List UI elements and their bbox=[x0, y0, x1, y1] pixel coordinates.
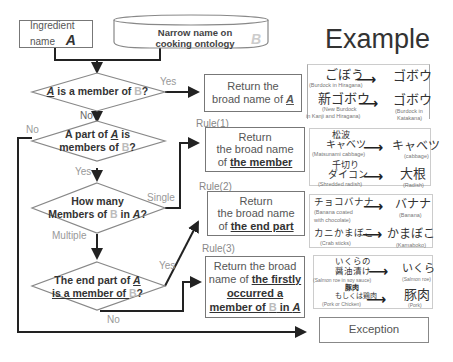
ontology-label: Narrow name on cooking ontology bbox=[140, 27, 250, 50]
ex3-arrow-2: ⟶ bbox=[366, 292, 386, 306]
ex3-to-2-cap: (Pork) bbox=[408, 303, 422, 309]
r1-pre: of bbox=[218, 156, 230, 168]
ex1-from-1b: キャベツ bbox=[326, 140, 366, 150]
symbol-b: B bbox=[251, 31, 261, 47]
exception-label: Exception bbox=[349, 323, 400, 336]
rule-3-label: Rule(3) bbox=[202, 243, 235, 254]
result-broad-name-a: Return the broad name of A bbox=[204, 74, 302, 112]
r3-line2: name of the firstly bbox=[209, 273, 301, 287]
ex0-from-2-cap2: in Kanji and Hiragana) bbox=[306, 113, 360, 119]
decision-1-post: ? bbox=[142, 85, 148, 97]
ex2-to-2-cap: (Kamaboko) bbox=[396, 242, 426, 248]
ex1-arrow-1: ⟶ bbox=[363, 140, 383, 154]
ingredient-label-line2-wrap: name A bbox=[30, 32, 76, 48]
ingredient-label-line1: Ingredient bbox=[30, 20, 74, 32]
d2-pre2: members of bbox=[59, 141, 121, 153]
d4-no-label: No bbox=[107, 314, 120, 325]
ex3-to-2: 豚肉 bbox=[404, 288, 430, 301]
ex2-arrow-2: ⟶ bbox=[362, 227, 382, 241]
ex3-to-1: いくら bbox=[402, 263, 435, 274]
ontology-line1: Narrow name on bbox=[140, 27, 250, 38]
ex1-to-2: 大根 bbox=[400, 167, 426, 180]
d2-yes-label: Yes bbox=[75, 166, 91, 177]
result-rule-3: Return the broad name of the firstly occ… bbox=[205, 256, 305, 318]
ex1-from-2-cap: (Shredded radish) bbox=[318, 181, 362, 187]
decision-2-line1: A part of A is bbox=[45, 128, 150, 141]
d1-yes-label: Yes bbox=[160, 76, 176, 87]
d2-post2: ? bbox=[129, 141, 135, 153]
r0-line2: broad name of A bbox=[212, 93, 294, 106]
ingredient-label-line2: name bbox=[30, 36, 55, 47]
ex3-arrow-1: ⟶ bbox=[368, 264, 388, 278]
ex2-arrow-1: ⟶ bbox=[363, 199, 383, 213]
r0-pre: broad name of bbox=[212, 93, 286, 105]
result-rule-2: Return the broad name of the end part bbox=[207, 191, 305, 236]
ex1-from-1-cap: (Matsunami cabbage) bbox=[312, 151, 365, 157]
d3-multiple-label: Multiple bbox=[52, 230, 86, 241]
symbol-b: B bbox=[134, 85, 142, 97]
example-title: Example bbox=[325, 24, 430, 55]
decision-3-text: How many Members of B in A? bbox=[45, 195, 150, 221]
r3-bold2: occurred a bbox=[227, 287, 283, 301]
d3-single-label: Single bbox=[147, 192, 175, 203]
symbol-a: A bbox=[286, 93, 294, 105]
ex0-arrow-1: ⟶ bbox=[356, 72, 376, 86]
ex0-to-2: ゴボウ bbox=[393, 93, 432, 106]
decision-4-line1: The end part of A bbox=[40, 274, 155, 287]
ex0-to-2-cap: (Burdock in bbox=[395, 108, 423, 114]
ex3-from-1b: 醤油漬け bbox=[335, 267, 371, 276]
r3-line1: Return the broad bbox=[214, 260, 297, 274]
d4-post2: ? bbox=[137, 287, 143, 299]
r3-pre: name of bbox=[209, 273, 252, 285]
decision-1-mid: is a member of bbox=[54, 85, 134, 97]
r3-pre4: member of bbox=[209, 301, 268, 313]
r2-pre: of bbox=[218, 220, 230, 232]
ex2-to-1-cap: (Banana) bbox=[399, 212, 422, 218]
decision-1-text: A is a member of B? bbox=[45, 85, 150, 98]
ex0-to-1: ゴボウ bbox=[393, 69, 432, 82]
symbol-b: B bbox=[110, 208, 118, 220]
ex1-to-1-cap: (cabbage) bbox=[404, 153, 429, 159]
decision-4-text: The end part of A is a member of B? bbox=[40, 274, 155, 300]
symbol-b: B bbox=[129, 287, 137, 299]
d4-yes-label: Yes bbox=[159, 260, 175, 271]
r3-bold1: the firstly bbox=[252, 273, 302, 285]
decision-2-line2: members of B? bbox=[45, 141, 150, 154]
symbol-a: A bbox=[66, 32, 76, 48]
r1-line1: Return bbox=[238, 131, 271, 144]
exception-box: Exception bbox=[319, 317, 429, 343]
ontology-line2: cooking ontology bbox=[140, 38, 250, 49]
decision-3-line1: How many bbox=[45, 195, 150, 208]
ex2-from-1-cap: (Banana coated bbox=[314, 209, 353, 215]
d3-pre: Members of bbox=[48, 208, 110, 220]
ex0-to-2-cap2: Katakana) bbox=[397, 115, 422, 121]
ex3-from-1: いくらの bbox=[335, 257, 371, 266]
d1-no-label: No bbox=[80, 110, 93, 121]
r1-line2: the broad name bbox=[216, 143, 293, 156]
r3-line4: member of B in A bbox=[209, 301, 300, 315]
ex2-to-1: バナナ bbox=[395, 198, 431, 210]
symbol-a: A bbox=[133, 274, 141, 286]
r1-line3: of the member bbox=[218, 156, 293, 169]
ex1-to-1: キャベツ bbox=[392, 140, 440, 152]
ex2-from-1-cap2: with chocolate) bbox=[314, 217, 351, 223]
ex0-arrow-2: ⟶ bbox=[358, 96, 378, 110]
decision-3-line2: Members of B in A? bbox=[45, 208, 150, 221]
r2-line2: the broad name bbox=[217, 207, 294, 220]
d3-mid: in bbox=[118, 208, 133, 220]
ex3-from-1-cap: (Salmon roe in soy sauce) bbox=[313, 278, 371, 284]
d4-pre: The end part of bbox=[54, 274, 133, 286]
d4-pre2: is a member of bbox=[52, 287, 129, 299]
ex3-from-2-cap: (Pork or Chicken) bbox=[322, 302, 361, 308]
ex1-to-2-cap: (Radish) bbox=[403, 182, 424, 188]
d2-post: is bbox=[118, 128, 130, 140]
ex3-from-2: 豚肉 bbox=[345, 285, 359, 292]
ex3-to-1-cap: (Salmon roe) bbox=[402, 277, 431, 283]
r3-mid4: in bbox=[277, 301, 293, 313]
ex0-from-1-cap: (Burdock in Hiragana) bbox=[309, 82, 363, 88]
r2-line1: Return bbox=[239, 195, 272, 208]
r2-bold: the end part bbox=[231, 220, 294, 232]
decision-4-line2: is a member of B? bbox=[40, 287, 155, 300]
r1-bold: the member bbox=[230, 156, 292, 168]
decision-2-text: A part of A is members of B? bbox=[45, 128, 150, 154]
